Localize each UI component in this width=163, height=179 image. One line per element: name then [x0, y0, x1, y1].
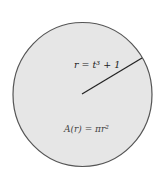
- radius-label: r = t³ + 1: [74, 59, 120, 70]
- circle-diagram: r = t³ + 1 A(r) = πr²: [0, 0, 163, 179]
- area-label: A(r) = πr²: [63, 124, 109, 134]
- circle-shape: [13, 23, 152, 167]
